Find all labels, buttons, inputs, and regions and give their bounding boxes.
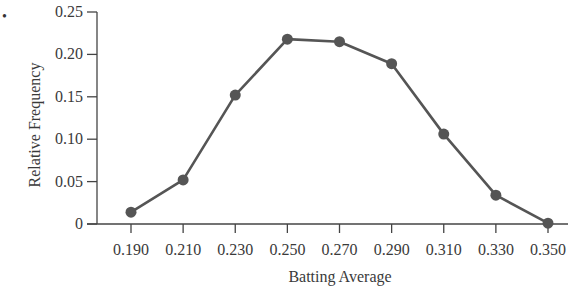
x-tick-label: 0.230: [217, 241, 253, 258]
y-tick-label: 0.10: [55, 130, 83, 147]
x-axis-title: Batting Average: [288, 268, 391, 286]
y-tick-label: 0: [75, 215, 83, 232]
data-point-marker: [282, 34, 293, 45]
data-point-marker: [178, 174, 189, 185]
data-point-marker: [438, 129, 449, 140]
data-point-marker: [126, 207, 137, 218]
line-chart: • 00.050.100.150.200.25 0.1900.2100.2300…: [0, 0, 570, 295]
data-series: [126, 34, 554, 229]
y-tick-label: 0.15: [55, 88, 83, 105]
y-tick-label: 0.25: [55, 3, 83, 20]
x-tick-label: 0.250: [269, 241, 305, 258]
x-tick-label: 0.210: [165, 241, 201, 258]
y-tick-label: 0.05: [55, 173, 83, 190]
x-tick-label: 0.290: [374, 241, 410, 258]
x-tick-label: 0.190: [113, 241, 149, 258]
y-axis: 00.050.100.150.200.25: [55, 3, 97, 232]
x-tick-label: 0.350: [530, 241, 566, 258]
bullet-mark: •: [2, 9, 7, 24]
y-axis-title: Relative Frequency: [26, 63, 44, 188]
data-point-marker: [230, 90, 241, 101]
series-line: [131, 39, 548, 223]
data-point-marker: [543, 218, 554, 229]
x-tick-label: 0.270: [322, 241, 358, 258]
data-point-marker: [386, 58, 397, 69]
y-tick-label: 0.20: [55, 45, 83, 62]
x-tick-label: 0.330: [478, 241, 514, 258]
data-point-marker: [490, 190, 501, 201]
x-axis: 0.1900.2100.2300.2500.2700.2900.3100.330…: [87, 224, 568, 258]
x-tick-label: 0.310: [426, 241, 462, 258]
data-point-marker: [334, 36, 345, 47]
